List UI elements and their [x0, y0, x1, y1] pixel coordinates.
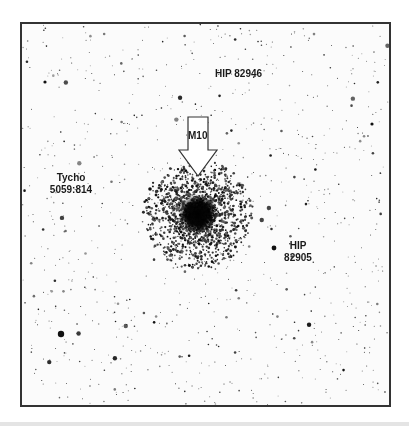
star-field-canvas [22, 24, 389, 405]
label-tycho-5059-814: Tycho 5059:814 [48, 172, 94, 196]
label-hip-82905-line2: 82905 [282, 252, 314, 264]
label-tycho-line2: 5059:814 [48, 184, 94, 196]
star-field-image: M10 HIP 82946 Tycho 5059:814 HIP 82905 [20, 22, 391, 407]
arrow-down-icon [178, 116, 218, 178]
label-m10: M10 [188, 130, 207, 142]
label-hip-82905-line1: HIP [282, 240, 314, 252]
label-hip-82946: HIP 82946 [215, 68, 262, 80]
label-hip-82905: HIP 82905 [282, 240, 314, 264]
label-tycho-line1: Tycho [48, 172, 94, 184]
bottom-strip [0, 422, 409, 426]
